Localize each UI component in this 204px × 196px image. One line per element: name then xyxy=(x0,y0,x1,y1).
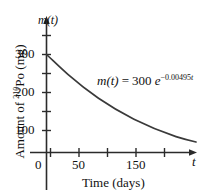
x-tick-label-50: 50 xyxy=(72,158,85,171)
y-axis-symbol-m: m xyxy=(38,13,47,27)
equation-annotation: m(t)=300 e−0.00495t xyxy=(97,74,193,87)
decay-curve xyxy=(47,55,197,143)
equation-equals: = xyxy=(122,73,129,88)
y-axis-symbol: m(t) xyxy=(38,14,58,26)
y-axis-symbol-paren: (t) xyxy=(47,13,58,27)
y-axis-title-units: (mg) xyxy=(12,44,27,73)
x-tick-label-0: 0 xyxy=(35,158,42,171)
equation-exp-value: 0.00495 xyxy=(165,73,191,82)
x-axis-symbol: t xyxy=(192,155,196,168)
y-axis-title: Amount of 210Po (mg) xyxy=(13,27,26,177)
y-axis-title-isotope: 210 xyxy=(12,87,21,99)
exponential-decay-chart: m(t) t 300 200 100 0 50 150 Time (days) … xyxy=(0,0,204,196)
y-axis-title-prefix: Amount of xyxy=(12,99,27,159)
x-tick-label-150: 150 xyxy=(126,158,146,171)
x-axis-title: Time (days) xyxy=(82,176,145,189)
equation-coefficient: 300 xyxy=(132,73,152,88)
equation-lhs: m(t) xyxy=(97,73,119,88)
equation-exponent: −0.00495t xyxy=(161,73,194,82)
equation-exp-var: t xyxy=(191,73,193,82)
y-axis-title-element: Po xyxy=(12,73,27,87)
